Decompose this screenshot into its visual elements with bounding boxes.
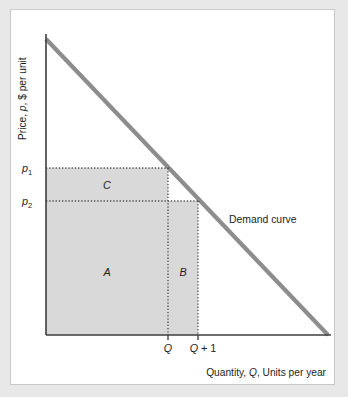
x-axis-title: Quantity, Q, Units per year bbox=[206, 367, 326, 378]
x-tick-label-q-plus-1: Q + 1 bbox=[190, 342, 217, 354]
y-tick-label-p1-subscript: 1 bbox=[28, 168, 32, 177]
figure-panel: Price, p, $ per unit p1 p2 Q Q + 1 Quant… bbox=[10, 9, 335, 385]
y-tick-label-p1-variable: p bbox=[21, 162, 28, 174]
x-axis-title-prefix: Quantity, bbox=[206, 367, 249, 378]
x-axis-title-suffix: , Units per year bbox=[257, 367, 327, 378]
y-tick-label-p1: p1 bbox=[21, 162, 32, 177]
y-axis-title-prefix: Price, bbox=[17, 111, 28, 140]
y-axis-title-suffix: , $ per unit bbox=[17, 57, 28, 105]
y-tick-label-p2: p2 bbox=[21, 195, 32, 210]
demand-curve-label: Demand curve bbox=[229, 214, 297, 225]
demand-curve-plot: Price, p, $ per unit p1 p2 Q Q + 1 Quant… bbox=[11, 10, 334, 384]
x-axis-title-variable: Q bbox=[249, 367, 257, 378]
y-axis-title: Price, p, $ per unit bbox=[17, 57, 28, 140]
region-c-label: C bbox=[103, 179, 111, 191]
x-tick-label-q-plus-1-suffix: + 1 bbox=[198, 342, 216, 354]
region-b-label: B bbox=[179, 266, 186, 278]
y-tick-label-p2-variable: p bbox=[21, 195, 28, 207]
y-tick-label-p2-subscript: 2 bbox=[28, 201, 32, 210]
x-tick-label-q: Q bbox=[164, 342, 173, 354]
region-a-label: A bbox=[102, 266, 110, 278]
